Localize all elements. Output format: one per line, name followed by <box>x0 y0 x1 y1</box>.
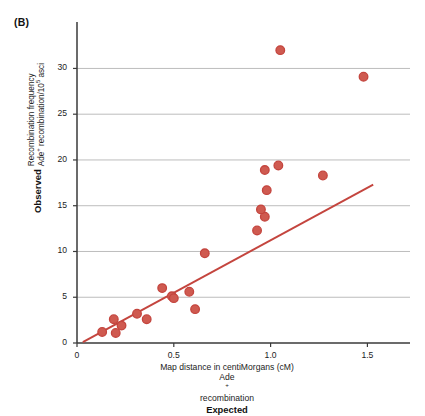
x-axis-title-line1: Map distance in centiMorgans (cM) <box>77 362 377 372</box>
y-tick-label: 10 <box>47 245 67 255</box>
data-point <box>133 309 142 318</box>
gridlines <box>77 68 410 297</box>
data-point <box>319 171 328 180</box>
data-point <box>98 328 107 337</box>
data-point <box>274 161 283 170</box>
data-point <box>142 315 151 324</box>
data-point <box>170 294 179 303</box>
x-axis-title: Map distance in centiMorgans (cM) Ade+ r… <box>77 362 377 416</box>
x-tick-label: 1.5 <box>355 350 379 360</box>
x-axis-title-bold: Expected <box>77 404 377 416</box>
data-point <box>191 305 200 314</box>
y-axis-title-bold: Observed <box>32 169 43 213</box>
y-axis-title: Observed Recombination frequency Ade+ re… <box>14 28 60 248</box>
data-point <box>257 205 266 214</box>
panel-label: (B) <box>14 16 29 28</box>
y-axis-title-lines: Recombination frequency Ade+ recombinati… <box>27 63 46 166</box>
x-tick-label: 1.0 <box>259 350 283 360</box>
data-point <box>111 329 120 338</box>
data-point <box>253 226 262 235</box>
data-point <box>109 315 118 324</box>
data-point <box>276 46 285 55</box>
data-point <box>185 287 194 296</box>
data-point <box>359 72 368 81</box>
y-tick-label: 30 <box>47 62 67 72</box>
x-axis-title-line2: Ade+ recombination <box>77 372 377 403</box>
data-point <box>260 166 269 175</box>
trend-line-segment <box>83 185 373 342</box>
y-tick-label: 15 <box>47 200 67 210</box>
y-tick-label: 5 <box>47 291 67 301</box>
axis-ticks <box>73 68 367 347</box>
data-point <box>117 321 126 330</box>
data-points <box>98 46 368 337</box>
y-tick-label: 0 <box>47 337 67 347</box>
data-point <box>262 186 271 195</box>
x-tick-label: 0.5 <box>162 350 186 360</box>
x-tick-label: 0 <box>65 350 89 360</box>
trend-line <box>83 185 373 342</box>
data-point <box>158 284 167 293</box>
axis-lines <box>77 22 410 343</box>
y-tick-label: 25 <box>47 108 67 118</box>
data-point <box>200 249 209 258</box>
y-tick-label: 20 <box>47 154 67 164</box>
y-axis-title-line2: Ade+ recombination/105 asci <box>37 63 47 166</box>
